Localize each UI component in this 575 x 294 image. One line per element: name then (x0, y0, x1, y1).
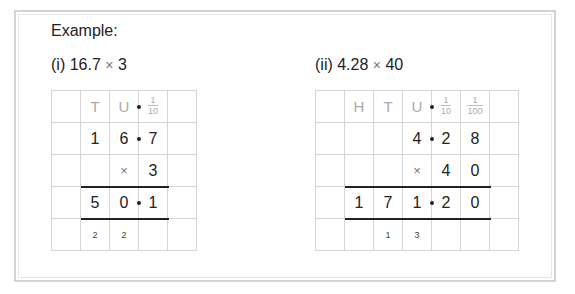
product-bottom-rule (81, 218, 169, 220)
grid-cell (316, 155, 345, 187)
multiply-sign-cell: × (403, 155, 432, 187)
grid-cell (374, 123, 403, 155)
tenths-header: 110 (432, 91, 461, 123)
grid-cell (168, 155, 197, 187)
problem-2-suffix: 40 (385, 56, 403, 73)
grid-cell (168, 187, 197, 219)
product-bottom-rule (345, 218, 491, 220)
grid-cell (490, 187, 519, 219)
grid-cell (490, 155, 519, 187)
grid-cell (490, 219, 519, 251)
digit-cell: 1 (345, 187, 374, 219)
product-top-rule (81, 186, 169, 188)
grid-cell (490, 123, 519, 155)
grid-cell (461, 219, 490, 251)
grid-cell (316, 219, 345, 251)
example-heading: Example: (51, 22, 118, 40)
digit-cell: 7 (374, 187, 403, 219)
digit-cell: 4 (432, 155, 461, 187)
digit-cell: 0 (461, 187, 490, 219)
multiply-sign: × (373, 57, 381, 73)
place-value-header-row: T U 110 (52, 91, 197, 123)
problem-1-suffix: 3 (118, 56, 127, 73)
grid-cell (490, 91, 519, 123)
digit-cell: 8 (461, 123, 490, 155)
digit-cell: 7 (139, 123, 168, 155)
grid-cell (432, 219, 461, 251)
grid-cell (316, 123, 345, 155)
hundreds-header: H (345, 91, 374, 123)
multiplier-row: × 4 0 (316, 155, 519, 187)
decimal-point (137, 201, 141, 205)
multiplier-row: × 3 (52, 155, 197, 187)
grid-cell (168, 219, 197, 251)
digit-cell: 0 (461, 155, 490, 187)
tens-header: T (374, 91, 403, 123)
multiplicand-row: 4 2 8 (316, 123, 519, 155)
problem-2-label: (ii) 4.28 × 40 (315, 56, 403, 74)
grid-cell (52, 123, 81, 155)
fraction-hundredths: 1100 (467, 95, 482, 116)
carry-row: 2 2 (52, 219, 197, 251)
decimal-point (430, 105, 434, 109)
grid-cell (168, 123, 197, 155)
carry-row: 1 3 (316, 219, 519, 251)
decimal-point (430, 137, 434, 141)
digit-cell: 4 (403, 123, 432, 155)
multiply-sign-cell: × (110, 155, 139, 187)
digit-cell: 1 (403, 187, 432, 219)
grid-cell (316, 91, 345, 123)
carry-digit: 1 (374, 219, 403, 251)
grid-cell (52, 91, 81, 123)
product-top-rule (345, 186, 491, 188)
grid-cell (345, 155, 374, 187)
decimal-point (137, 137, 141, 141)
product-row: 5 0 1 (52, 187, 197, 219)
product-row: 1 7 1 2 0 (316, 187, 519, 219)
tenths-header: 110 (139, 91, 168, 123)
decimal-point (137, 105, 141, 109)
grid-cell (52, 187, 81, 219)
digit-cell: 5 (81, 187, 110, 219)
digit-cell: 2 (432, 187, 461, 219)
units-header: U (110, 91, 139, 123)
grid-cell (168, 91, 197, 123)
multiplicand-row: 1 6 7 (52, 123, 197, 155)
digit-cell: 6 (110, 123, 139, 155)
problem-2-grid: H T U 110 1100 4 2 8 × 4 0 1 7 1 2 0 1 3 (315, 90, 519, 251)
digit-cell: 0 (110, 187, 139, 219)
problem-1-grid: T U 110 1 6 7 × 3 5 0 1 2 2 (51, 90, 197, 251)
grid-cell (139, 219, 168, 251)
tens-header: T (81, 91, 110, 123)
decimal-point (430, 201, 434, 205)
multiply-sign: × (105, 57, 113, 73)
grid-cell (81, 155, 110, 187)
digit-cell: 1 (81, 123, 110, 155)
units-header: U (403, 91, 432, 123)
grid-cell (374, 155, 403, 187)
fraction-tenths: 110 (441, 95, 451, 116)
grid-cell (345, 123, 374, 155)
problem-2-prefix: (ii) 4.28 (315, 56, 368, 73)
grid-cell (52, 155, 81, 187)
carry-digit: 2 (81, 219, 110, 251)
fraction-tenths: 110 (148, 95, 158, 116)
digit-cell: 2 (432, 123, 461, 155)
problem-1-prefix: (i) 16.7 (51, 56, 101, 73)
grid-cell (345, 219, 374, 251)
grid-cell (316, 187, 345, 219)
digit-cell: 1 (139, 187, 168, 219)
carry-digit: 3 (403, 219, 432, 251)
grid-cell (52, 219, 81, 251)
place-value-header-row: H T U 110 1100 (316, 91, 519, 123)
carry-digit: 2 (110, 219, 139, 251)
problem-1-label: (i) 16.7 × 3 (51, 56, 127, 74)
hundredths-header: 1100 (461, 91, 490, 123)
digit-cell: 3 (139, 155, 168, 187)
